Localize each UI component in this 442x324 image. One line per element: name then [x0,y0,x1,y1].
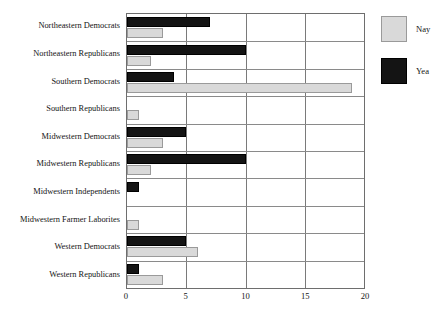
category-axis-labels: Northeastern DemocratsNortheastern Repub… [0,13,124,289]
category-label: Midwestern Republicans [0,151,124,179]
x-tick-label: 5 [184,291,188,301]
bar-nay [127,56,151,66]
category-label: Midwestern Democrats [0,123,124,151]
bar-group [127,151,364,178]
category-label: Southern Democrats [0,68,124,96]
legend-swatch-nay [381,16,407,42]
bar-group [127,178,364,205]
bar-yea [127,72,174,82]
x-tick-label: 10 [241,291,250,301]
bar-nay [127,165,151,175]
bar-yea [127,182,139,192]
legend-label: Nay [416,24,430,34]
x-tick-label: 20 [361,291,370,301]
category-label: Midwestern Independents [0,179,124,207]
bar-nay [127,83,352,93]
bar-group [127,124,364,151]
bar-nay [127,138,163,148]
bar-yea [127,127,186,137]
bar-group [127,69,364,96]
x-tick-label: 0 [124,291,128,301]
bar-chart: Northeastern DemocratsNortheastern Repub… [0,0,442,324]
bar-yea [127,236,186,246]
bar-group [127,206,364,233]
bar-nay [127,220,139,230]
legend-item: Yea [381,58,441,84]
bar-yea [127,264,139,274]
category-label: Southern Republicans [0,96,124,124]
x-tick-label: 15 [301,291,310,301]
legend-label: Yea [416,66,429,76]
category-label: Midwestern Farmer Laborites [0,206,124,234]
bar-group [127,261,364,288]
bar-yea [127,17,210,27]
legend-swatch-yea [381,58,407,84]
bar-group [127,96,364,123]
bar-nay [127,110,139,120]
bar-nay [127,247,198,257]
bar-yea [127,45,246,55]
x-axis-tick-labels: 05101520 [126,291,365,309]
category-label: Western Republicans [0,261,124,289]
category-label: Northeastern Democrats [0,13,124,41]
bar-group [127,233,364,260]
chart-legend: NayYea [381,16,441,100]
bar-yea [127,154,246,164]
category-label: Northeastern Republicans [0,41,124,69]
bar-rows [127,14,364,288]
bar-group [127,41,364,68]
plot-area [126,13,365,289]
legend-item: Nay [381,16,441,42]
bar-group [127,14,364,41]
bar-nay [127,275,163,285]
category-label: Western Democrats [0,234,124,262]
bar-nay [127,28,163,38]
